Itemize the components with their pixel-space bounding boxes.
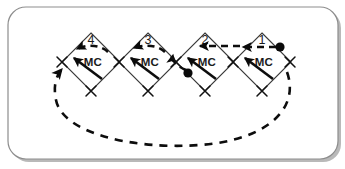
token-place-1 xyxy=(275,42,284,51)
panel-background xyxy=(8,7,338,159)
token-place-2 xyxy=(183,68,192,77)
place-1-number: 1 xyxy=(259,33,266,47)
figure-container: 4 MC 3 MC 2 MC 1 MC xyxy=(0,0,345,169)
petri-net-diagram: 4 MC 3 MC 2 MC 1 MC xyxy=(0,0,345,169)
panel-frame xyxy=(8,7,341,162)
